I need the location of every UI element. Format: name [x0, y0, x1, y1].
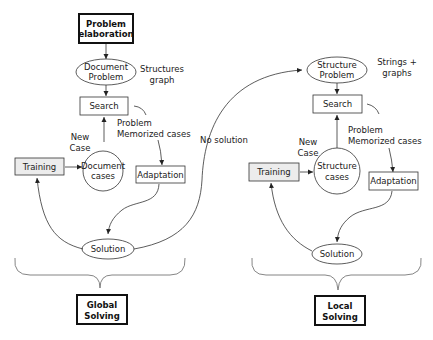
global-new-case-label-1: New [71, 132, 90, 142]
global-solution-node: Solution [82, 239, 134, 259]
local-adaptation-label: Adaptation [370, 176, 417, 186]
cbr-solving-diagram: Problem elaboration Document Problem Str… [0, 0, 433, 340]
local-problem-label-2: Problem [320, 70, 355, 80]
arrow-memorized-to-adaptation [158, 140, 162, 165]
local-cases-node: Structure cases [314, 148, 360, 194]
arrow-adaptation-to-solution [108, 184, 159, 234]
local-new-case-label-1: New [299, 137, 318, 147]
problem-elaboration-label-1: Problem [86, 19, 126, 29]
local-cases-label-1: Structure [317, 161, 357, 171]
global-training-node: Training [15, 158, 64, 175]
global-adaptation-label: Adaptation [137, 170, 184, 180]
global-cases-node: Document cases [81, 151, 126, 191]
problem-elaboration-node: Problem elaboration [78, 14, 133, 43]
global-problem-label-2: Problem [89, 72, 124, 82]
global-cases-label-2: cases [91, 171, 116, 181]
global-problem-label-1: Document [84, 62, 129, 72]
local-solution-label: Solution [320, 249, 355, 259]
global-cases-label-1: Document [81, 161, 126, 171]
local-new-case-label-2: Case [298, 148, 319, 158]
local-memorized-label-2: Memorized cases [348, 136, 422, 146]
local-search-label: Search [323, 99, 352, 109]
global-adaptation-node: Adaptation [136, 166, 185, 183]
local-arrow-memorized-to-adaptation [389, 148, 393, 172]
local-solution-node: Solution [312, 244, 362, 264]
local-search-node: Search [313, 95, 362, 113]
local-solving-label-1: Local [328, 301, 353, 311]
global-training-label: Training [22, 162, 57, 172]
local-memorized-label-1: Problem [348, 125, 383, 135]
local-problem-note-2: graphs [382, 68, 412, 78]
arrow-solution-to-training [37, 178, 83, 249]
global-solving-label-2: Solving [84, 311, 119, 321]
global-problem-node: Document Problem [76, 59, 136, 85]
global-brace [15, 258, 185, 288]
no-solution-label: No solution [200, 135, 248, 145]
global-memorized-label-1: Problem [117, 118, 152, 128]
local-arrow-solution-to-training [271, 183, 312, 251]
local-adaptation-node: Adaptation [369, 172, 418, 190]
global-solving-node: Global Solving [77, 295, 127, 324]
local-training-label: Training [256, 167, 291, 177]
local-solving-node: Local Solving [315, 296, 365, 325]
global-solving-label-1: Global [87, 300, 118, 310]
local-problem-note-1: Strings + [377, 57, 417, 67]
problem-elaboration-label-2: elaboration [78, 29, 133, 39]
local-arrow-adaptation-to-solution [337, 191, 392, 242]
curve-search-to-memorized [134, 106, 146, 115]
global-memorized-label-2: Memorized cases [117, 129, 191, 139]
global-problem-note-1: Structures [140, 64, 185, 74]
global-problem-note-2: graph [150, 75, 175, 85]
local-cases-label-2: cases [325, 172, 350, 182]
global-search-label: Search [89, 101, 118, 111]
local-problem-label-1: Structure [317, 60, 357, 70]
local-training-node: Training [249, 163, 299, 181]
local-curve-search-to-memorized [367, 104, 379, 114]
global-new-case-label-2: Case [70, 143, 91, 153]
local-solving-label-2: Solving [322, 312, 357, 322]
global-solution-label: Solution [91, 244, 126, 254]
global-search-node: Search [80, 97, 128, 115]
arrow-no-solution [134, 70, 302, 249]
local-problem-node: Structure Problem [307, 57, 367, 83]
